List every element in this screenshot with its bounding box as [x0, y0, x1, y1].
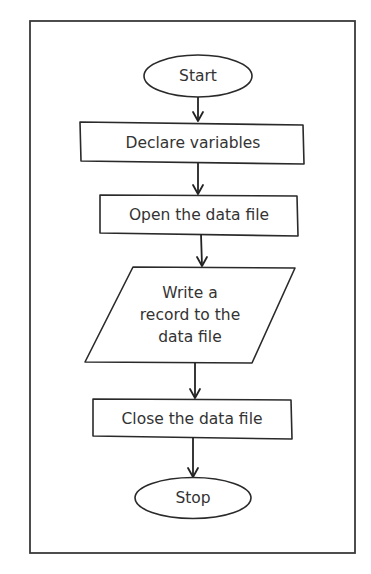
node-write-label-line-3: data file	[158, 328, 221, 346]
node-write-label-line-2: record to the	[140, 306, 240, 324]
node-open-label: Open the data file	[129, 206, 269, 224]
node-start-label: Start	[179, 67, 217, 85]
node-close: Close the data file	[93, 399, 292, 439]
node-write-label-line-1: Write a	[162, 284, 217, 302]
node-stop: Stop	[135, 478, 251, 519]
node-stop-label: Stop	[175, 489, 210, 507]
node-start: Start	[144, 55, 252, 97]
flowchart-canvas: Start Declare variables Open the data fi…	[0, 0, 371, 574]
node-declare: Declare variables	[80, 122, 304, 164]
connector-line	[201, 234, 202, 266]
node-close-label: Close the data file	[122, 410, 263, 428]
node-declare-label: Declare variables	[126, 134, 261, 152]
node-open: Open the data file	[100, 195, 298, 236]
